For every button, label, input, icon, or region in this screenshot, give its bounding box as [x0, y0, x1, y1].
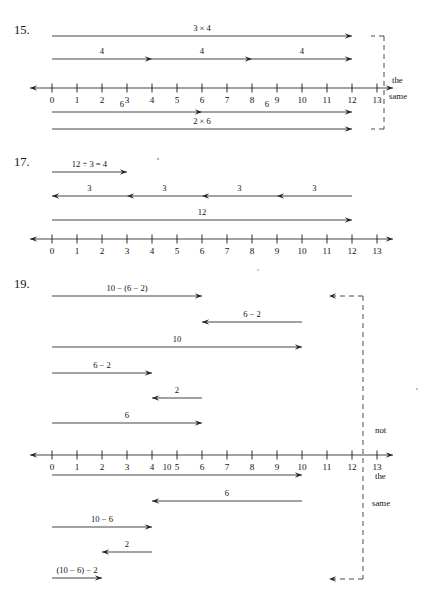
- axis-tick-label: 13: [372, 95, 382, 105]
- problem-19-segment-two-back-bottom: 2: [102, 539, 152, 555]
- axis-tick-label: 6: [200, 462, 205, 472]
- problem-19-segment-six-minus-two-fwd: 6 − 2: [52, 360, 152, 376]
- axis-tick-label: 10: [297, 246, 307, 256]
- segment-label: 10: [163, 462, 172, 472]
- problem-19-number-line: 012345678910111213: [30, 451, 393, 473]
- axis-tick-label: 4: [150, 95, 155, 105]
- segment-label: 6 − 2: [93, 360, 111, 370]
- problem-19-side-label-2: same: [372, 498, 390, 508]
- problem-15-segment-four-b: 4: [152, 46, 252, 62]
- axis-tick-label: 7: [225, 95, 230, 105]
- problem-17-segment-three-a: 3: [52, 183, 127, 199]
- segment-label: 2: [125, 539, 129, 549]
- problem-19-segment-six-minus-two-back: 6 − 2: [202, 309, 302, 325]
- segment-label: 10 − 6: [91, 514, 114, 524]
- segment-label: 3 × 4: [193, 23, 211, 33]
- problem-15-side-label-0: the: [392, 75, 403, 85]
- segment-label: 4: [100, 46, 105, 56]
- axis-tick-label: 11: [323, 246, 332, 256]
- axis-tick-label: 11: [323, 95, 332, 105]
- axis-tick-label: 9: [275, 462, 280, 472]
- axis-tick-label: 8: [250, 246, 255, 256]
- problem-17-number: 17.: [14, 155, 30, 169]
- axis-tick-label: 1: [75, 95, 80, 105]
- scan-speck-1: [416, 388, 418, 390]
- worksheet-page: 15.3 × 4444662 × 6012345678910111213thes…: [0, 0, 430, 597]
- segment-label: (10 − 6) − 2: [56, 565, 97, 575]
- problem-19-segment-six-fwd: 6: [52, 410, 202, 426]
- problem-15-side-label-1: same: [389, 91, 407, 101]
- problem-19-segment-ten-minus-six-minus-two-result: (10 − 6) − 2: [52, 565, 102, 581]
- axis-tick-label: 3: [125, 246, 130, 256]
- axis-tick-label: 7: [225, 246, 230, 256]
- axis-tick-label: 2: [100, 95, 105, 105]
- axis-tick-label: 6: [200, 95, 205, 105]
- axis-tick-label: 11: [323, 462, 332, 472]
- segment-label: 3: [237, 183, 241, 193]
- problem-17-number-line: 012345678910111213: [30, 235, 393, 257]
- problem-19-segment-ten-top: 10: [52, 334, 302, 350]
- axis-tick-label: 1: [75, 246, 80, 256]
- axis-tick-label: 12: [347, 246, 357, 256]
- problem-15-comparison-bracket: [371, 36, 384, 129]
- axis-tick-label: 5: [175, 462, 180, 472]
- axis-tick-label: 0: [50, 95, 55, 105]
- segment-label: 6: [125, 410, 130, 420]
- problem-19-segment-ten-minus-six-minus-two: 10 − (6 − 2): [52, 283, 202, 299]
- problem-15-segment-four-c: 4: [252, 46, 352, 62]
- problem-19-segment-two-back-top: 2: [152, 385, 202, 401]
- axis-tick-label: 8: [250, 462, 255, 472]
- problem-15-number: 15.: [14, 23, 30, 37]
- segment-label: 10: [173, 334, 182, 344]
- problem-17-segment-three-c: 3: [202, 183, 277, 199]
- problem-17-segment-twelve: 12: [52, 207, 352, 223]
- axis-tick-label: 5: [175, 246, 180, 256]
- scan-speck-2: [257, 269, 259, 271]
- axis-tick-label: 4: [150, 246, 155, 256]
- axis-tick-label: 0: [50, 246, 55, 256]
- problem-15: 15.3 × 4444662 × 6012345678910111213thes…: [14, 23, 407, 132]
- axis-tick-label: 3: [125, 462, 130, 472]
- axis-tick-label: 8: [250, 95, 255, 105]
- axis-tick-label: 12: [347, 462, 357, 472]
- problem-17-segment-three-b: 3: [127, 183, 202, 199]
- segment-label: 2 × 6: [193, 116, 211, 126]
- problem-15-segment-three-times-four: 3 × 4: [52, 23, 352, 39]
- problem-19-comparison-bracket: [329, 293, 363, 581]
- axis-tick-label: 9: [275, 95, 280, 105]
- problem-19-segment-six-back-bottom: 6: [152, 488, 302, 504]
- segment-label: 6: [265, 99, 270, 109]
- problem-19-number: 19.: [14, 277, 30, 291]
- axis-tick-label: 9: [275, 246, 280, 256]
- axis-tick-label: 12: [347, 95, 357, 105]
- axis-tick-label: 10: [297, 95, 307, 105]
- problem-19-segment-ten-minus-six: 10 − 6: [52, 514, 152, 530]
- segment-label: 6: [225, 488, 230, 498]
- problem-19: 19.10 − (6 − 2)6 − 2106 − 22610610 − 62(…: [14, 277, 393, 582]
- problem-17-segment-twelve-div-three: 12 ÷ 3 = 4: [52, 159, 127, 175]
- problem-15-number-line: 012345678910111213: [30, 84, 393, 106]
- problem-15-segment-two-times-six: 2 × 6: [52, 116, 352, 132]
- axis-tick-label: 2: [100, 246, 105, 256]
- segment-label: 3: [162, 183, 166, 193]
- problem-19-side-label-1: the: [375, 471, 386, 481]
- axis-tick-label: 7: [225, 462, 230, 472]
- axis-tick-label: 10: [297, 462, 307, 472]
- segment-label: 12 ÷ 3 = 4: [72, 159, 108, 169]
- axis-tick-label: 4: [150, 462, 155, 472]
- scan-speck-0: [157, 158, 159, 160]
- axis-tick-label: 6: [200, 246, 205, 256]
- axis-tick-label: 3: [125, 95, 130, 105]
- segment-label: 12: [198, 207, 207, 217]
- problem-17: 17.12 ÷ 3 = 4333312012345678910111213: [14, 155, 393, 256]
- axis-tick-label: 5: [175, 95, 180, 105]
- segment-label: 4: [200, 46, 205, 56]
- axis-tick-label: 2: [100, 462, 105, 472]
- axis-tick-label: 13: [372, 246, 382, 256]
- axis-tick-label: 1: [75, 462, 80, 472]
- problem-19-side-label-0: not: [375, 425, 387, 435]
- problem-15-segment-four-a: 4: [52, 46, 152, 62]
- segment-label: 4: [300, 46, 305, 56]
- segment-label: 3: [312, 183, 316, 193]
- segment-label: 6 − 2: [243, 309, 261, 319]
